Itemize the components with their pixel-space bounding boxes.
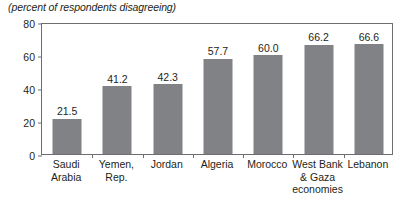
- bar-slot: 60.0: [243, 24, 293, 154]
- bar-value-label: 60.0: [258, 43, 278, 54]
- plot-area: 21.541.242.357.760.066.266.6 020406080: [41, 23, 393, 155]
- bar-slot: 42.3: [143, 24, 193, 154]
- bar[interactable]: [153, 84, 182, 154]
- bar-value-label: 66.2: [308, 32, 328, 43]
- y-axis-tick-mark: [38, 24, 42, 25]
- y-axis-tick-mark: [38, 123, 42, 124]
- x-axis-category-label-line: & Gaza: [286, 171, 348, 184]
- bar-slot: 41.2: [92, 24, 142, 154]
- bar[interactable]: [304, 45, 333, 154]
- bar-slot: 66.6: [344, 24, 394, 154]
- bar[interactable]: [203, 59, 232, 154]
- bar-slot: 21.5: [42, 24, 92, 154]
- bar[interactable]: [254, 55, 283, 154]
- bar-value-label: 66.6: [359, 32, 379, 43]
- bar-value-label: 41.2: [107, 74, 127, 85]
- bar-value-label: 57.7: [208, 46, 228, 57]
- bar-chart-figure: (percent of respondents disagreeing) 21.…: [0, 0, 408, 209]
- bar[interactable]: [103, 86, 132, 154]
- bar-value-label: 42.3: [157, 72, 177, 83]
- y-axis-tick-mark: [38, 156, 42, 157]
- x-axis-labels: SaudiArabiaYemen,Rep.JordanAlgeriaMorocc…: [41, 158, 393, 209]
- y-axis-tick-mark: [38, 57, 42, 58]
- bars-group: 21.541.242.357.760.066.266.6: [42, 24, 392, 154]
- x-axis-category-label: Lebanon: [337, 158, 399, 171]
- bar[interactable]: [354, 44, 383, 154]
- chart-subtitle: (percent of respondents disagreeing): [8, 1, 176, 13]
- x-axis-category-label-line: Lebanon: [337, 158, 399, 171]
- bar-value-label: 21.5: [57, 106, 77, 117]
- bar-slot: 66.2: [293, 24, 343, 154]
- y-axis-tick-mark: [38, 90, 42, 91]
- x-axis-category-label-line: Rep.: [85, 171, 147, 184]
- bar[interactable]: [53, 119, 82, 154]
- bar-slot: 57.7: [193, 24, 243, 154]
- x-axis-category-label-line: economies: [286, 183, 348, 196]
